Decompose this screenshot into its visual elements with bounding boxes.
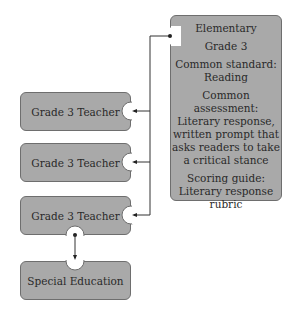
connector-lines [0,0,297,317]
